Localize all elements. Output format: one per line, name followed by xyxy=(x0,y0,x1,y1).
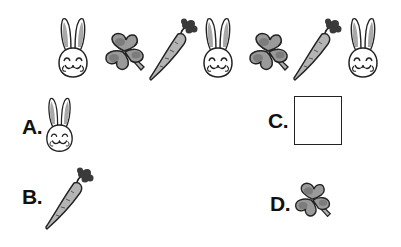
bunny-icon xyxy=(45,95,74,155)
carrot-icon xyxy=(148,18,198,82)
clover-icon xyxy=(103,32,147,74)
bunny-icon xyxy=(202,17,234,79)
option-b-label: B. xyxy=(22,186,42,207)
option-c-label: C. xyxy=(268,110,288,131)
option-a-label: A. xyxy=(22,116,42,137)
bunny-icon xyxy=(347,17,379,79)
empty-answer-box xyxy=(294,96,342,145)
carrot-icon xyxy=(292,18,342,82)
clover-icon xyxy=(247,32,291,74)
clover-icon xyxy=(293,180,333,222)
carrot-icon xyxy=(44,167,94,231)
option-d-label: D. xyxy=(270,193,290,214)
bunny-icon xyxy=(57,17,89,79)
